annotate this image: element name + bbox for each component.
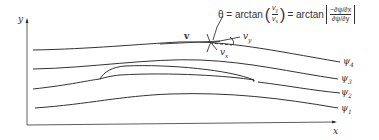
streamline-psi1 <box>35 94 338 108</box>
streamline-psi3 <box>33 60 338 79</box>
tangent-line <box>210 37 240 43</box>
streamline-psi2 <box>33 79 340 93</box>
x-axis-label: x <box>333 126 338 136</box>
equation-lhs: θ = arctan <box>218 9 263 20</box>
stream-function-ratio: −∂ψ/∂x ∂ψ/∂y <box>326 5 355 24</box>
arrow-mark-bottom <box>207 44 210 52</box>
velocity-ratio: vy vx <box>272 4 278 26</box>
equation-mid: = arctan <box>287 9 323 20</box>
x-axis-arrow-icon <box>332 121 337 124</box>
vx-label: vx <box>220 47 228 59</box>
psi3-label: ψ3 <box>341 73 352 85</box>
x-axis <box>27 122 335 125</box>
y-axis-label: y <box>18 14 23 24</box>
angle-equation: θ = arctan ( vy vx ) = arctan −∂ψ/∂x ∂ψ/… <box>218 4 355 26</box>
arrow-mark-top <box>207 34 210 42</box>
streamline-psi4 <box>33 42 340 62</box>
psi2-label: ψ2 <box>341 87 352 99</box>
vy-label: vy <box>243 31 251 43</box>
airfoil <box>100 66 254 82</box>
psi4-label: ψ4 <box>343 56 354 68</box>
y-axis-arrow-icon <box>26 18 29 23</box>
velocity-label: v <box>184 31 189 41</box>
vx-pointer <box>212 44 217 50</box>
psi1-label: ψ1 <box>341 103 352 115</box>
